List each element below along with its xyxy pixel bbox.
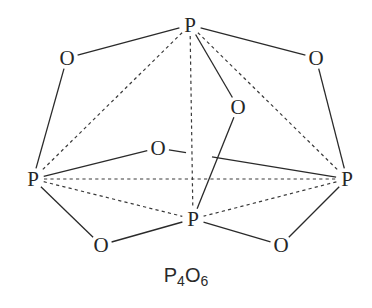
bond-P4-O6 (204, 222, 271, 242)
phosphorus-atom-p3: P (341, 167, 353, 191)
p-p-edge-P3-P4 (204, 182, 337, 216)
phosphorus-atom-p4: P (187, 207, 199, 231)
oxygen-atom-o5: O (93, 233, 108, 257)
oxygen-atom-o2: O (308, 46, 323, 70)
oxygen-atom-o6: O (273, 233, 288, 257)
tetrahedron-edges (41, 33, 339, 217)
oxygen-atom-o4: O (150, 136, 165, 160)
bond-O1-P2 (36, 69, 64, 169)
oxygen-atom-o3: O (230, 95, 245, 119)
formula-count-p: 4 (177, 273, 185, 289)
p-p-edge-P2-P4 (44, 182, 183, 217)
bond-O6-P3 (289, 187, 339, 237)
bond-O5-P4 (112, 222, 183, 242)
oxygen-atom-o1: O (59, 46, 74, 70)
bond-O4-P3-front (169, 150, 186, 153)
bond-O3-P4 (197, 117, 234, 209)
bond-P2-O5 (41, 187, 93, 238)
p-p-edge-P1-P4 (190, 36, 193, 208)
bond-O2-P3 (319, 69, 345, 169)
phosphorus-atom-p1: P (184, 13, 196, 37)
bond-O4-P3-back (212, 157, 336, 177)
bond-P2-O4 (44, 151, 148, 177)
formula-element-o: O (185, 264, 201, 286)
formula-element-p: P (164, 264, 177, 286)
bond-P1-O3 (196, 35, 233, 98)
formula-label: P4O6 (0, 264, 372, 289)
phosphorus-atom-p2: P (27, 167, 39, 191)
formula-count-o: 6 (200, 273, 208, 289)
p4o6-structure-diagram: PPPPOOOOOO (0, 0, 372, 308)
